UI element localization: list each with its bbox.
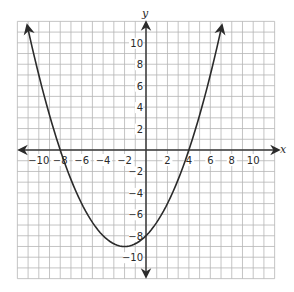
y-tick-label: 8 — [137, 59, 143, 70]
x-axis-label: x — [280, 143, 287, 156]
y-tick-label: 6 — [137, 81, 143, 92]
y-tick-label: 10 — [130, 38, 143, 49]
y-axis-label: y — [141, 7, 149, 20]
axes — [19, 22, 278, 276]
y-tick-label: −4 — [128, 188, 143, 199]
y-tick-label: 2 — [137, 124, 143, 135]
y-tick-label: −10 — [122, 252, 143, 263]
x-tick-label: 8 — [229, 155, 235, 166]
x-tick-label: 6 — [207, 155, 213, 166]
x-tick-label: −10 — [28, 155, 49, 166]
x-tick-label: 10 — [247, 155, 260, 166]
y-tick-label: −2 — [128, 166, 143, 177]
coordinate-plane: −10−8−6−4−2246810−10−8−6−4−2246810 x y — [0, 0, 294, 292]
y-tick-label: 4 — [137, 102, 143, 113]
x-tick-label: −2 — [117, 155, 132, 166]
y-tick-label: −6 — [128, 209, 143, 220]
x-tick-label: 2 — [164, 155, 170, 166]
x-tick-label: −6 — [74, 155, 89, 166]
x-tick-label: −4 — [96, 155, 111, 166]
